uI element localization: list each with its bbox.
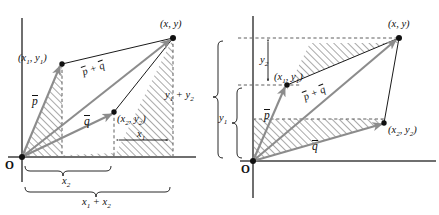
vector-addition-figure: O ((xx1, y1) (x2, y2) (x, y) p q p + q x… <box>0 0 439 215</box>
left-origin-label: O <box>5 160 14 172</box>
right-measure-label-y1: y1 <box>219 113 227 126</box>
left-point-label-sum-head: (x, y) <box>160 19 182 30</box>
left-point-sum-head <box>170 35 176 41</box>
right-point-q-head <box>381 120 386 125</box>
left-measure-label-x1: x1 <box>137 129 145 142</box>
left-point-label-p-head: ((xx1, y1) <box>18 53 47 66</box>
right-vector-label-q: q <box>312 141 318 153</box>
right-point-sum-head <box>396 35 402 41</box>
right-measure-y1-brace <box>232 88 242 158</box>
left-measure-label-x2: x2 <box>62 176 70 189</box>
left-point-p-head <box>59 61 64 66</box>
left-panel-graphic <box>8 18 196 197</box>
right-point-origin <box>250 158 256 164</box>
left-measure-label-x1x2: x1 + x2 <box>82 197 111 210</box>
left-vector-label-q: q <box>84 116 90 128</box>
right-point-label-p-head: (x1, y1) <box>274 72 303 85</box>
right-point-label-sum-head: (x, y) <box>388 19 410 30</box>
left-point-q-head <box>111 109 116 114</box>
left-measure-x2-brace <box>25 166 111 176</box>
right-origin-label: O <box>241 164 250 176</box>
right-measure-label-y2: y2 <box>260 55 268 68</box>
right-vector-label-p: p <box>264 110 270 122</box>
right-measure-y1y2-brace <box>213 41 223 158</box>
left-point-label-q-head: (x2, y2) <box>117 114 146 127</box>
left-vector-label-p: p <box>32 96 38 108</box>
left-point-origin <box>19 154 25 160</box>
right-point-label-q-head: (x2, y2) <box>388 125 417 138</box>
right-measure-label-y1y2: y1 + y2 <box>165 90 194 103</box>
